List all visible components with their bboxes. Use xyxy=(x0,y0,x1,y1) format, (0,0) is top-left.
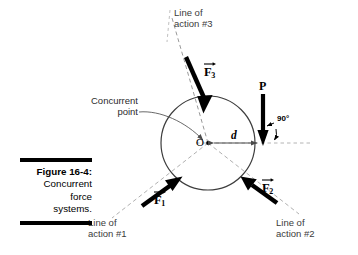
line-of-action-3-dashed xyxy=(172,18,208,143)
caption-line-1: Concurrent xyxy=(14,178,92,190)
caption-title: Figure 16-4: xyxy=(14,166,92,178)
force-vector-p xyxy=(257,94,268,146)
label-distance-d: d xyxy=(231,129,237,142)
concurrent-point-leader xyxy=(139,112,203,140)
caption-line-3: systems. xyxy=(14,203,92,215)
label-force-f1: F1 xyxy=(154,190,165,208)
label-force-f3: F3 xyxy=(204,62,215,80)
label-point-o: O xyxy=(196,136,204,148)
force-f3-symbol: F xyxy=(204,65,212,79)
concurrent-point-dot xyxy=(206,141,210,145)
caption-text: Figure 16-4: Concurrent force systems. xyxy=(14,162,92,219)
vector-arrow-icon xyxy=(204,61,216,66)
figure-caption-block: Figure 16-4: Concurrent force systems. xyxy=(14,158,92,225)
label-concurrent-point: Concurrent point xyxy=(52,96,138,117)
label-line-of-action-2: Line of action #2 xyxy=(276,218,315,239)
figure-page: Line of action #3 Concurrent point Line … xyxy=(0,0,358,255)
label-line-of-action-1: Line of action #1 xyxy=(88,218,127,239)
vector-arrow-icon xyxy=(262,177,274,182)
label-force-f2: F2 xyxy=(262,178,273,196)
right-angle-indicator xyxy=(267,123,277,140)
caption-rule-bottom xyxy=(20,221,92,225)
label-line-of-action-3: Line of action #3 xyxy=(174,8,213,29)
vector-arrow-icon xyxy=(154,189,166,194)
line-of-action-3-tick xyxy=(167,10,170,42)
force-f2-symbol: F xyxy=(262,181,270,195)
label-angle-90: 90° xyxy=(277,115,289,124)
caption-line-2: force xyxy=(14,191,92,203)
force-f1-symbol: F xyxy=(154,193,162,207)
label-force-p: P xyxy=(259,80,266,93)
